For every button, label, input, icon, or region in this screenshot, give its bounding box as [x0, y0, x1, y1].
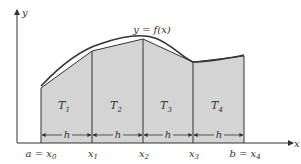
h-label: h — [216, 129, 222, 140]
trapezoid-rule-diagram: h h h h T1 T2 T3 T4 y x y = f(x) a = x0 … — [0, 0, 301, 164]
tick-x0: a = x0 — [26, 148, 57, 161]
tick-x4: b = x4 — [229, 148, 260, 161]
curve-label: y = f(x) — [132, 24, 171, 35]
y-axis-label: y — [21, 7, 28, 18]
h-label: h — [115, 129, 121, 140]
h-label: h — [165, 129, 171, 140]
h-label: h — [64, 129, 70, 140]
tick-x1: x1 — [88, 148, 98, 161]
tick-x3: x3 — [189, 148, 200, 161]
tick-x2: x2 — [139, 148, 150, 161]
x-tick-labels: a = x0 x1 x2 x3 b = x4 — [26, 148, 261, 161]
x-axis-label: x — [294, 138, 300, 149]
